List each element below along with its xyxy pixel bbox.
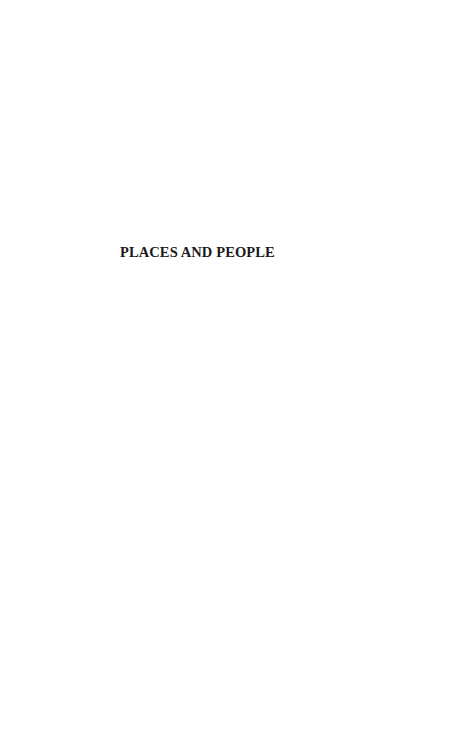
page-title: PLACES AND PEOPLE <box>120 244 275 261</box>
